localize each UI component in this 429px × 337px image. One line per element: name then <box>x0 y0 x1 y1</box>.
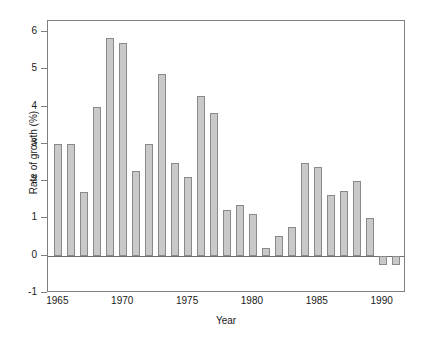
bar <box>93 107 101 256</box>
y-axis-tick-label: -1 <box>3 287 37 297</box>
x-axis-tick-label: 1965 <box>37 296 77 306</box>
y-axis-tick-label: 6 <box>3 26 37 36</box>
bar <box>197 96 205 256</box>
bar <box>275 236 283 256</box>
y-axis-tick-label: 1 <box>3 212 37 222</box>
bar <box>327 195 335 255</box>
y-axis-tick-label: 5 <box>3 63 37 73</box>
bar <box>223 210 231 256</box>
y-axis-title: Rate of growth (%) <box>28 73 39 233</box>
x-axis-title: Year <box>47 315 405 326</box>
bar <box>301 163 309 256</box>
y-axis-tick <box>41 292 47 293</box>
bar <box>353 181 361 256</box>
bar <box>262 248 270 255</box>
x-axis-tick-label: 1970 <box>102 296 142 306</box>
bar <box>145 144 153 256</box>
bar <box>106 38 114 256</box>
bar <box>379 256 387 265</box>
bar <box>249 214 257 256</box>
bar <box>184 177 192 255</box>
bar <box>236 205 244 256</box>
y-axis-tick-label: 2 <box>3 175 37 185</box>
x-axis-tick-label: 1975 <box>167 296 207 306</box>
bar <box>392 256 400 265</box>
plot-area <box>47 20 405 292</box>
chart-figure: Rate of growth (%) -10123456 19651970197… <box>0 0 429 337</box>
bar <box>158 74 166 256</box>
x-axis-tick-label: 1985 <box>297 296 337 306</box>
x-axis-tick-label: 1990 <box>362 296 402 306</box>
zero-baseline <box>48 256 404 257</box>
y-axis-tick-label: 0 <box>3 250 37 260</box>
x-axis-tick-label: 1980 <box>232 296 272 306</box>
bar <box>288 227 296 256</box>
bar <box>67 144 75 256</box>
bar <box>340 191 348 255</box>
bar <box>119 43 127 256</box>
bar <box>171 163 179 256</box>
bar <box>314 167 322 256</box>
bar <box>132 171 140 256</box>
bar <box>54 144 62 256</box>
y-axis-tick-label: 4 <box>3 101 37 111</box>
bar <box>80 192 88 255</box>
y-axis-tick-label: 3 <box>3 138 37 148</box>
bar <box>210 113 218 256</box>
bar <box>366 218 374 255</box>
